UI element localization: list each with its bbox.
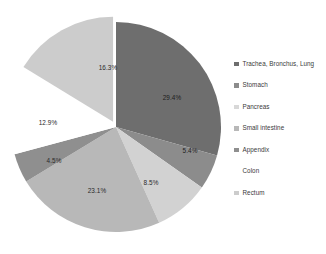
legend-item-stomach[interactable]: Stomach [234, 75, 326, 97]
legend-swatch-icon [234, 126, 239, 131]
legend-item-label: Colon [243, 168, 260, 174]
legend-swatch-icon [234, 191, 239, 196]
pie-slices-svg [0, 0, 232, 254]
legend-swatch-icon [234, 62, 239, 67]
legend-item-pancreas[interactable]: Pancreas [234, 96, 326, 118]
legend-item-label: Small intestine [243, 125, 285, 131]
legend-item-appendix[interactable]: Appendix [234, 139, 326, 161]
legend-item-small-intestine[interactable]: Small intestine [234, 118, 326, 140]
legend-item-label: Trachea, Bronchus, Lung [243, 61, 315, 67]
legend-swatch-icon [234, 83, 239, 88]
pie-plot-area: 29.4% 5.4% 8.5% 23.1% 4.5% 12.9% 16.3% [0, 0, 232, 254]
legend-item-label: Pancreas [243, 104, 270, 110]
legend-item-label: Rectum [243, 190, 265, 196]
pie-chart: 29.4% 5.4% 8.5% 23.1% 4.5% 12.9% 16.3% T… [0, 0, 326, 254]
legend-item-colon[interactable]: Colon [234, 161, 326, 183]
legend-item-rectum[interactable]: Rectum [234, 182, 326, 204]
legend-item-trachea-bronchus-lung[interactable]: Trachea, Bronchus, Lung [234, 53, 326, 75]
legend-item-label: Stomach [243, 82, 268, 88]
slice-group [11, 17, 221, 232]
legend-item-label: Appendix [243, 147, 270, 153]
legend: Trachea, Bronchus, Lung Stomach Pancreas… [234, 53, 326, 204]
legend-swatch-icon [234, 169, 239, 174]
legend-swatch-icon [234, 148, 239, 153]
legend-swatch-icon [234, 105, 239, 110]
